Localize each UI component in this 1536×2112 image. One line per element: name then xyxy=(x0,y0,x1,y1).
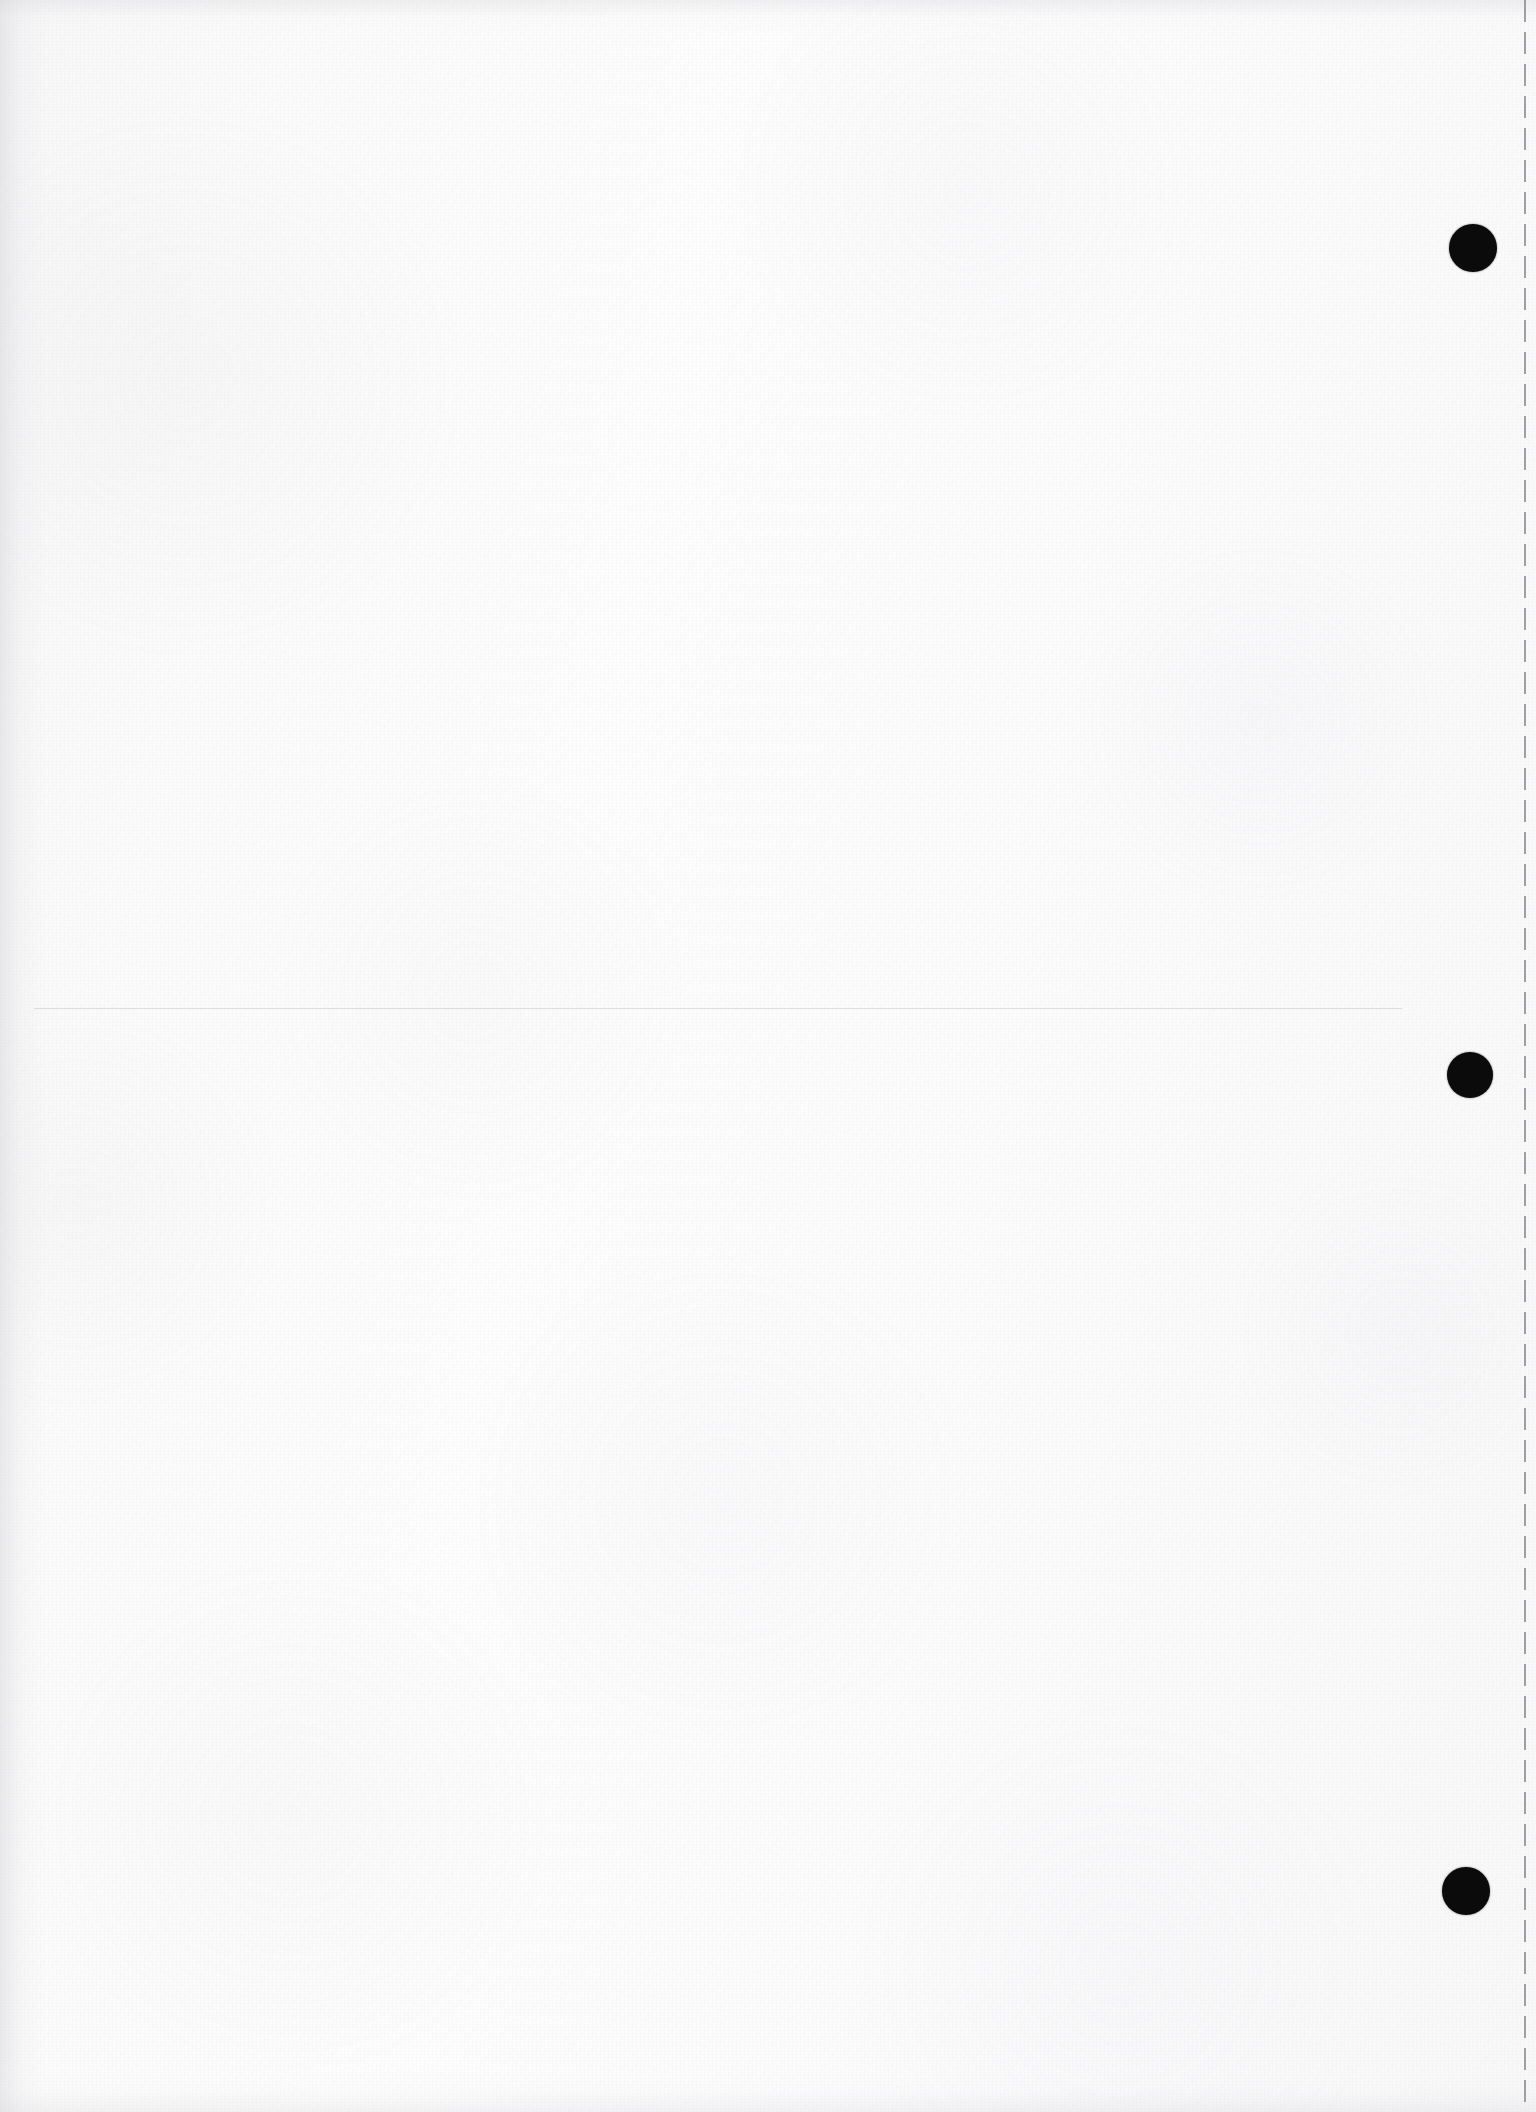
scanned-page xyxy=(0,0,1536,2112)
punch-mark-bottom xyxy=(1442,1867,1490,1915)
faint-horizontal-rule xyxy=(34,1008,1402,1009)
punch-mark-middle xyxy=(1447,1052,1493,1098)
trim-guide-right xyxy=(1524,0,1526,2112)
scan-vignette xyxy=(0,0,1536,2112)
punch-mark-top xyxy=(1449,224,1497,272)
